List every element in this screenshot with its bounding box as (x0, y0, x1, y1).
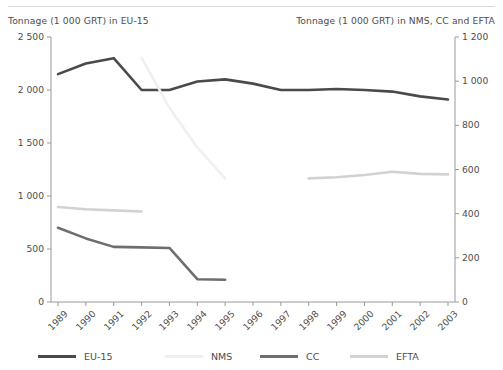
left-axis-tick-label: 1 000 (18, 190, 44, 201)
chart-container: Tonnage (1 000 GRT) in EU-15 Tonnage (1 … (0, 0, 503, 370)
left-axis-tick-label: 2 000 (18, 84, 44, 95)
series-line-eu-15 (58, 58, 448, 99)
legend-swatch-eu-15 (38, 355, 76, 358)
legend-label: EU-15 (84, 348, 112, 366)
right-axis-tick-label: 1 000 (462, 75, 488, 86)
right-axis-tick-label: 800 (462, 119, 480, 130)
legend-swatch-nms (165, 355, 203, 358)
legend-label: CC (306, 348, 319, 366)
legend-label: EFTA (396, 348, 419, 366)
legend-swatch-efta (350, 355, 388, 358)
series-line-efta (58, 207, 142, 211)
right-axis-tick-label: 400 (462, 208, 480, 219)
right-axis-tick-label: 200 (462, 252, 480, 263)
right-axis-tick-label: 600 (462, 164, 480, 175)
legend-label: NMS (211, 348, 232, 366)
left-axis-tick-label: 1 500 (18, 137, 44, 148)
series-line-nms (142, 58, 226, 178)
left-axis-tick-label: 0 (38, 296, 44, 307)
left-axis-tick-label: 500 (26, 243, 44, 254)
legend-swatch-cc (260, 355, 298, 358)
series-line-efta (309, 172, 448, 179)
right-axis-tick-label: 1 200 (462, 31, 488, 42)
right-axis-tick-label: 0 (462, 296, 468, 307)
series-line-cc (58, 228, 225, 280)
left-axis-tick-label: 2 500 (18, 31, 44, 42)
chart-legend: EU-15NMSCCEFTA (0, 348, 503, 368)
